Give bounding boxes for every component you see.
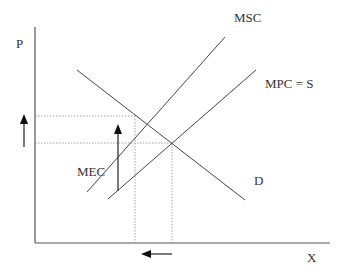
externality-diagram: P X MSC MPC = S D MEC [0, 0, 346, 273]
demand-curve [77, 70, 245, 200]
demand-label: D [254, 173, 263, 188]
arrow-up-icon [20, 114, 28, 124]
x-axis-label: X [307, 250, 317, 265]
msc-label: MSC [234, 10, 261, 25]
mec-label: MEC [77, 164, 105, 179]
mpc-label: MPC = S [265, 76, 314, 91]
y-axis-label: P [16, 36, 23, 51]
arrow-left-icon [141, 250, 151, 258]
arrow-up-icon [114, 124, 122, 134]
mpc-supply-curve [108, 70, 256, 199]
